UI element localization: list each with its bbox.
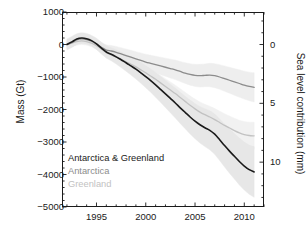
y-tick-label: −5000 — [37, 202, 64, 212]
mass-balance-chart: Mass (Gt) Sea level contribution (mm) 10… — [0, 0, 306, 226]
y-tick-label: 0 — [59, 40, 64, 50]
legend-item-combined: Antarctica & Greenland — [68, 152, 164, 165]
y-tick-label: −2000 — [37, 105, 64, 115]
legend: Antarctica & Greenland Antarctica Greenl… — [68, 152, 164, 191]
y-tick-label: −3000 — [37, 137, 64, 147]
y2-tick-label: 0 — [270, 40, 275, 50]
x-tick-label: 2010 — [224, 212, 264, 222]
x-tick-label: 2005 — [175, 212, 215, 222]
y-tick-label: −1000 — [37, 72, 64, 82]
x-tick-label: 1995 — [76, 212, 116, 222]
legend-item-antarctica: Antarctica — [68, 165, 164, 178]
y2-tick-label: 5 — [270, 98, 275, 108]
legend-item-greenland: Greenland — [68, 178, 164, 191]
y-tick-label: 1000 — [43, 7, 64, 17]
x-tick-label: 2000 — [126, 212, 166, 222]
y2-tick-label: 10 — [270, 157, 281, 167]
y-tick-label: −4000 — [37, 170, 64, 180]
